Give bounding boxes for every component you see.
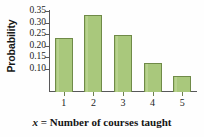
x-axis-tick-label: 3 [113,97,133,108]
x-axis-tick-mark [153,92,154,96]
bar [55,38,73,92]
y-axis-tick-mark [45,34,49,35]
bar-highlight [57,39,59,92]
x-axis-title-rest: = Number of courses taught [38,116,171,128]
bar-highlight [146,64,148,92]
bar-highlight [116,36,118,92]
y-axis-tick-mark [45,11,49,12]
x-axis-tick-label: 5 [172,97,192,108]
bar [144,63,162,92]
x-axis-title: x = Number of courses taught [0,116,204,128]
y-axis-tick-label: 0.20 [19,41,46,51]
bar [114,35,132,92]
x-axis-tick-labels: 12345 [49,97,197,110]
x-axis-tick-label: 4 [143,97,163,108]
y-axis-title-container: Probability [0,0,20,100]
y-axis-tick-mark [45,23,49,24]
y-axis-tick-label: 0.35 [19,6,46,16]
x-axis-tick-mark [123,92,124,96]
y-axis-tick-label: 0.10 [19,64,46,74]
x-axis-tick-mark [182,92,183,96]
x-axis-tick-label: 1 [54,97,74,108]
x-axis-tick-label: 2 [83,97,103,108]
y-axis-tick-mark [45,57,49,58]
x-axis-tick-mark [93,92,94,96]
y-axis-tick-labels: 0.350.300.250.200.150.10 [19,8,46,92]
bar-highlight [175,77,177,92]
bar-highlight [86,16,88,92]
bar [173,76,191,92]
y-axis-tick-label: 0.30 [19,18,46,28]
plot-area [49,10,197,92]
y-axis-tick-label: 0.25 [19,29,46,39]
bar [84,15,102,92]
y-axis-title: Probability [5,8,17,84]
y-axis-tick-mark [45,46,49,47]
y-axis-tick-label: 0.15 [19,52,46,62]
y-axis-line [49,10,50,92]
y-axis-tick-mark [45,69,49,70]
x-axis-tick-mark [64,92,65,96]
probability-bar-chart: Probability 0.350.300.250.200.150.10 123… [0,0,204,137]
